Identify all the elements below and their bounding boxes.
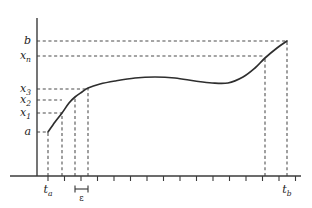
data-curve <box>48 41 287 132</box>
y-axis-label-x2: x2 <box>0 94 31 108</box>
figure-canvas <box>0 0 312 208</box>
x-axis-label-tb: tb <box>273 184 301 198</box>
epsilon-label: ε <box>72 194 92 203</box>
y-axis-label-x1: x1 <box>0 107 31 121</box>
x-axis-ticks <box>48 176 296 181</box>
x-axis-label-ta: ta <box>34 184 62 198</box>
epsilon-bracket <box>75 186 88 193</box>
guide-lines-vertical <box>48 41 287 176</box>
figure-container: bxnx3x2x1a tatb ε <box>0 0 312 208</box>
y-axis-label-xn: xn <box>0 50 31 64</box>
y-axis-label-a: a <box>0 126 31 137</box>
y-axis-label-b: b <box>0 35 31 46</box>
